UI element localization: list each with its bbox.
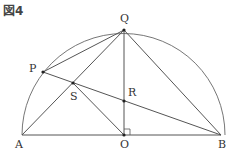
figure-title: 図4 [3, 4, 23, 18]
label-B: B [218, 138, 226, 151]
label-S: S [70, 90, 78, 103]
label-R: R [128, 86, 137, 99]
point-S [71, 81, 74, 84]
segment-OS [73, 83, 124, 135]
segment-PB [43, 72, 221, 135]
point-P [41, 70, 44, 73]
label-O: O [120, 138, 129, 151]
label-A: A [14, 138, 24, 151]
point-R [122, 99, 125, 102]
point-Q [122, 28, 125, 31]
label-Q: Q [120, 12, 129, 25]
geometry-diagram: 図4 Q P S R A O B [0, 0, 239, 163]
segment-PQ [43, 30, 124, 72]
label-P: P [29, 62, 37, 75]
point-O [122, 133, 125, 136]
